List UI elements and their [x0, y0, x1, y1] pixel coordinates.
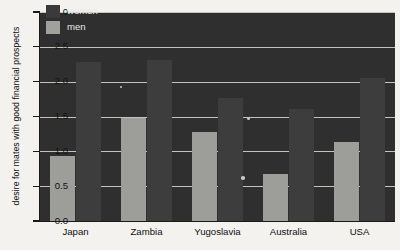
y-axis-tick	[33, 220, 39, 221]
y-axis-tick-label: 0.0	[55, 215, 68, 226]
bar-yugoslavia-men	[192, 132, 217, 221]
bar-australia-women	[289, 109, 314, 221]
chart-legend: women men	[46, 4, 186, 38]
y-axis-tick-label: 1.0	[55, 145, 68, 156]
x-axis-label-japan: Japan	[40, 226, 111, 237]
bar-zambia-women	[147, 60, 172, 221]
y-axis-spine	[39, 11, 40, 222]
y-axis-tick-label: 1.5	[55, 110, 68, 121]
x-axis-label-usa: USA	[324, 226, 395, 237]
x-axis-label-yugoslavia: Yugoslavia	[182, 226, 253, 237]
plot-area	[40, 12, 395, 221]
bar-japan-women	[76, 62, 101, 222]
bar-usa-men	[334, 142, 359, 221]
legend-label-women: women	[67, 5, 98, 16]
gridline	[40, 47, 395, 48]
y-axis-tick	[33, 11, 39, 12]
bar-yugoslavia-women	[218, 98, 243, 221]
y-axis-tick	[33, 46, 39, 47]
y-axis-tick	[33, 81, 39, 82]
legend-label-men: men	[67, 21, 86, 32]
x-axis-label-zambia: Zambia	[111, 226, 182, 237]
y-axis-tick-label: 0.5	[55, 180, 68, 191]
y-axis-tick-label: 2.5	[55, 40, 68, 51]
y-axis-tick	[33, 151, 39, 152]
bar-usa-women	[360, 78, 385, 222]
y-axis-tick	[33, 116, 39, 117]
scan-artifact	[241, 176, 245, 180]
x-axis-spine	[39, 221, 395, 222]
y-axis-tick-label: 2.0	[55, 75, 68, 86]
legend-swatch-women-icon	[46, 5, 60, 18]
chart-figure: desire for mates with good financial pro…	[0, 0, 400, 250]
y-axis-tick	[33, 186, 39, 187]
x-axis-label-australia: Australia	[253, 226, 324, 237]
y-axis-title: desire for mates with good financial pro…	[11, 11, 21, 221]
bar-zambia-men	[121, 118, 146, 221]
bar-australia-men	[263, 174, 288, 221]
legend-swatch-men-icon	[46, 21, 60, 34]
